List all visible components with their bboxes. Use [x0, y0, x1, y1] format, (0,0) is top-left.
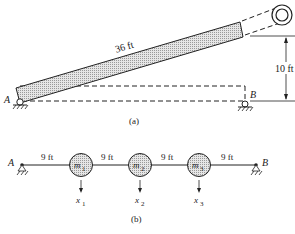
svg-text:x: x — [75, 195, 80, 205]
svg-text:1: 1 — [82, 165, 86, 173]
beam-point-a: A — [7, 157, 15, 168]
svg-text:3: 3 — [200, 165, 204, 173]
beam-diagram: 10 ft 36 ft A B (a) A B 9 ft — [0, 0, 295, 234]
figure-b: A B 9 ft 9 ft 9 ft 9 ft m 1 x 1 m 2 x — [7, 152, 268, 224]
point-a-label: A — [3, 94, 11, 105]
caption-a: (a) — [129, 116, 139, 126]
beam-point-b: B — [262, 157, 268, 168]
svg-text:m: m — [133, 160, 140, 170]
span-4: 9 ft — [221, 152, 234, 162]
mass-2: m 2 x 2 — [129, 154, 152, 209]
svg-text:x: x — [193, 195, 198, 205]
svg-text:2: 2 — [141, 200, 145, 208]
mass-1: m 1 x 1 — [70, 154, 93, 209]
point-b-label: B — [250, 89, 256, 100]
svg-text:1: 1 — [82, 200, 86, 208]
mass-3: m 3 x 3 — [188, 154, 211, 209]
svg-text:x: x — [134, 195, 139, 205]
raised-beam — [16, 22, 243, 103]
svg-text:m: m — [192, 160, 199, 170]
figure-a: 10 ft 36 ft A B (a) — [3, 5, 295, 126]
svg-text:m: m — [74, 160, 81, 170]
svg-text:2: 2 — [141, 165, 145, 173]
height-label: 10 ft — [275, 63, 294, 74]
wheel-icon — [272, 5, 292, 25]
span-3: 9 ft — [161, 152, 174, 162]
span-2: 9 ft — [101, 152, 114, 162]
caption-b: (b) — [131, 214, 142, 224]
length-label: 36 ft — [114, 39, 135, 55]
svg-text:3: 3 — [200, 200, 204, 208]
roller-support-b — [238, 101, 253, 111]
span-1: 9 ft — [41, 152, 54, 162]
